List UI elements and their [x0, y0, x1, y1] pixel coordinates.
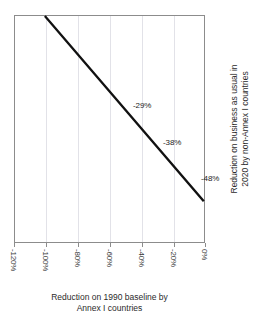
- y-axis-title-line2: 2020 by non-Annex I countries: [240, 15, 251, 243]
- x-axis-title: Reduction on 1990 baseline by Annex I co…: [14, 292, 205, 314]
- xtick-label-0: 0%: [200, 249, 209, 260]
- y-axis-title-inner: Reduction on business as usual in 2020 b…: [229, 15, 251, 243]
- xtick-mark-6: [205, 243, 206, 247]
- xtick-label--20: -20%: [169, 249, 178, 267]
- annotation--38: -38%: [163, 138, 181, 147]
- xtick-label--80: -80%: [73, 249, 82, 267]
- y-axis-title-line1: Reduction on business as usual in: [229, 15, 240, 243]
- plot-area: -29% -38% -48%: [14, 15, 205, 243]
- xtick-label--100: -100%: [41, 249, 50, 271]
- x-axis-title-line2: Annex I countries: [14, 303, 205, 314]
- xtick-mark-2: [78, 243, 79, 247]
- series-line: [15, 16, 204, 242]
- xtick-label--120: -120%: [9, 249, 18, 271]
- xtick-mark-1: [46, 243, 47, 247]
- annotation--29: -29%: [133, 101, 151, 110]
- xtick-mark-0: [14, 243, 15, 247]
- series-line-path: [46, 17, 203, 200]
- x-axis-title-line1: Reduction on 1990 baseline by: [14, 292, 205, 303]
- xtick-label--60: -60%: [105, 249, 114, 267]
- y-axis-title: Reduction on business as usual in 2020 b…: [205, 15, 251, 243]
- xtick-mark-4: [142, 243, 143, 247]
- chart-figure: -29% -38% -48% -120% -100% -80% -60% -40…: [0, 0, 253, 329]
- xtick-mark-3: [110, 243, 111, 247]
- xtick-label--40: -40%: [137, 249, 146, 267]
- xtick-mark-5: [174, 243, 175, 247]
